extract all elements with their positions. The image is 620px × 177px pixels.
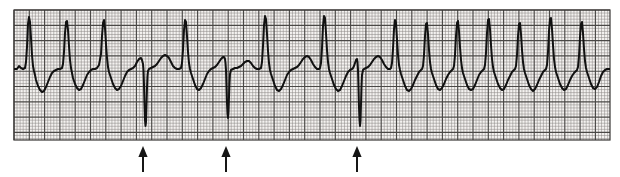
up-arrow-icon <box>138 146 147 157</box>
ecg-chart-canvas <box>0 0 620 177</box>
up-arrow-icon <box>352 146 361 157</box>
up-arrow-icon <box>221 146 230 157</box>
ecg-marker-group <box>138 146 361 172</box>
ecg-figure <box>0 0 620 177</box>
